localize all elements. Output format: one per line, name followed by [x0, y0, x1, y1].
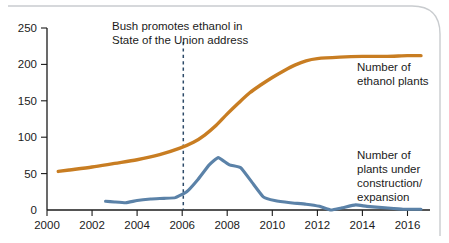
y-tick-label-200: 200: [18, 58, 37, 70]
x-tick-label-2002: 2002: [79, 219, 105, 231]
x-axis-ticks: [47, 210, 408, 216]
annotation-line-1: Bush promotes ethanol in: [112, 20, 242, 32]
y-tick-label-100: 100: [18, 131, 37, 143]
chart-canvas: 250 200 150 100 50 0 2000 2002 2004 2006…: [0, 0, 449, 243]
y-axis-ticks: [41, 28, 47, 174]
series-label-construction-line3: construction/: [357, 177, 423, 189]
x-tick-label-2004: 2004: [124, 219, 150, 231]
x-tick-label-2008: 2008: [214, 219, 240, 231]
x-tick-label-2006: 2006: [169, 219, 195, 231]
series-label-construction-line1: Number of: [357, 149, 411, 161]
y-tick-label-0: 0: [31, 204, 37, 216]
x-tick-label-2016: 2016: [395, 219, 421, 231]
x-tick-label-2000: 2000: [34, 219, 60, 231]
series-label-construction-line2: plants under: [357, 163, 420, 175]
y-tick-label-250: 250: [18, 22, 37, 34]
x-tick-label-2014: 2014: [350, 219, 376, 231]
ethanol-plants-chart: 250 200 150 100 50 0 2000 2002 2004 2006…: [0, 0, 449, 243]
series-label-construction-line4: expansion: [357, 191, 409, 203]
x-tick-label-2010: 2010: [260, 219, 286, 231]
y-tick-label-150: 150: [18, 95, 37, 107]
annotation-line-2: State of the Union address: [112, 34, 248, 46]
x-tick-label-2012: 2012: [305, 219, 331, 231]
series-label-ethanol-plants-line2: ethanol plants: [357, 75, 429, 87]
y-tick-label-50: 50: [24, 168, 37, 180]
series-label-ethanol-plants-line1: Number of: [357, 61, 411, 73]
